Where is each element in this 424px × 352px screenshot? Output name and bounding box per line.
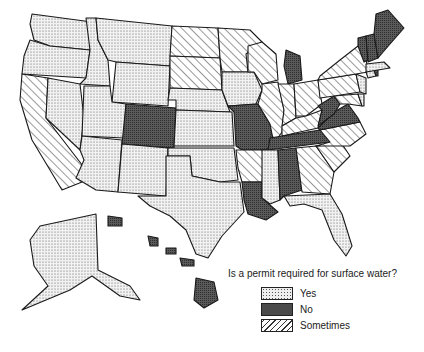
- legend-item-sometimes: Sometimes: [261, 317, 424, 333]
- state-mi: [284, 50, 302, 84]
- state-ak: [22, 214, 140, 310]
- state-oh: [294, 80, 322, 116]
- state-co: [122, 104, 176, 148]
- legend-label-yes: Yes: [300, 288, 316, 299]
- legend-label-no: No: [300, 304, 313, 315]
- legend-item-yes: Yes: [261, 285, 424, 301]
- legend-title: Is a permit required for surface water?: [228, 268, 424, 279]
- state-ma: [366, 62, 390, 72]
- state-sd: [170, 56, 222, 90]
- state-ia: [222, 72, 262, 106]
- legend-label-sometimes: Sometimes: [300, 320, 350, 331]
- state-wy: [112, 62, 170, 106]
- state-ne: [168, 88, 230, 112]
- legend-swatch-yes: [261, 287, 293, 300]
- legend-swatch-no: [261, 303, 293, 316]
- states-layer: [20, 10, 404, 310]
- state-az: [76, 136, 122, 192]
- state-fl: [284, 194, 352, 256]
- state-nd: [170, 26, 220, 58]
- state-ms: [262, 150, 280, 204]
- state-ks: [174, 110, 234, 146]
- state-me: [374, 10, 404, 58]
- legend: Is a permit required for surface water? …: [228, 268, 424, 333]
- state-mt: [96, 18, 172, 66]
- legend-item-no: No: [261, 301, 424, 317]
- legend-swatch-sometimes: [261, 319, 293, 332]
- state-nm: [118, 144, 168, 196]
